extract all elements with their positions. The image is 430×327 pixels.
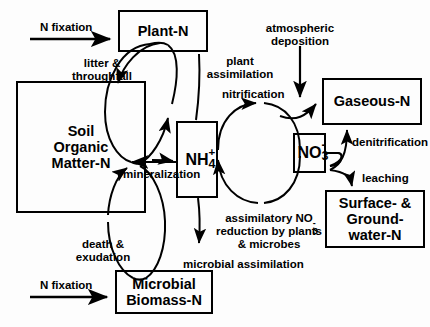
pool-label-soil-line1: Soil [68, 123, 95, 139]
atm-dep-line2: deposition [255, 35, 345, 48]
ammonium-base: NH [185, 151, 208, 168]
flux-label-denitrification: denitrification [352, 136, 428, 149]
pool-box-ammonium[interactable]: NH+4 [176, 121, 218, 198]
assim-no3-count: 3 [313, 226, 318, 236]
arrow-leaching [330, 170, 352, 186]
flux-label-n-fixation-top: N fixation [40, 21, 92, 34]
pool-label-nitrate: NO-3 [298, 144, 322, 162]
flux-label-atmospheric-deposition: atmospheric deposition [255, 22, 345, 48]
flux-label-litter-throughfall: litter & throughfall [57, 57, 147, 83]
ammonium-count: 4 [209, 158, 216, 172]
pool-label-soil-line2: Organic [54, 139, 109, 155]
pool-box-microbial-biomass-n[interactable]: Microbial Biomass-N [115, 270, 213, 314]
pool-box-plant-n[interactable]: Plant-N [118, 10, 208, 52]
pool-label-water-line3: water-N [348, 227, 401, 243]
plant-assim-line2: assimilation [203, 68, 277, 81]
flux-label-leaching: leaching [362, 172, 409, 185]
litter-line1: litter & [57, 57, 147, 70]
pool-label-gaseous-n: Gaseous-N [334, 93, 411, 109]
flux-label-death-exudation: death & exudation [62, 238, 144, 264]
pool-label-soil-line3: Matter-N [52, 155, 111, 171]
pool-box-surface-groundwater-n[interactable]: Surface- & Ground- water-N [325, 190, 425, 248]
pool-label-ammonium: NH+4 [185, 151, 208, 169]
flux-label-mineralization: mineralization [123, 168, 200, 181]
nitrate-base: NO [298, 144, 322, 161]
nitrate-count: 3 [322, 150, 329, 164]
litter-line2: throughfall [57, 70, 147, 83]
assim-no3-text: assimilatory NO [225, 212, 313, 224]
pool-box-nitrate[interactable]: NO-3 [293, 133, 326, 173]
arrow-microbial-assimilation [198, 198, 200, 243]
pool-label-water-line1: Surface- & [339, 195, 412, 211]
atm-dep-line1: atmospheric [255, 22, 345, 35]
flux-label-plant-assimilation: plant assimilation [203, 55, 277, 81]
pool-box-soil-organic-matter-n[interactable]: Soil Organic Matter-N [16, 81, 146, 213]
pool-label-water-line2: Ground- [346, 211, 403, 227]
arrow-plant-assimilation [196, 54, 199, 120]
flux-label-nitrification: nitrification [222, 88, 285, 101]
death-line1: death & [62, 238, 144, 251]
arrow-into-nh4 [152, 160, 173, 161]
assim-no3-line3: & microbes [205, 238, 333, 251]
flux-label-n-fixation-bottom: N fixation [40, 279, 92, 292]
nitrogen-cycle-diagram: Plant-N Soil Organic Matter-N Microbial … [0, 0, 430, 327]
pool-label-microbial-line1: Microbial [132, 276, 196, 292]
assim-no3-line1: assimilatory NO-3 [205, 212, 333, 225]
pool-label-microbial-line2: Biomass-N [126, 292, 202, 308]
pool-box-gaseous-n[interactable]: Gaseous-N [322, 78, 422, 125]
pool-label-plant-n: Plant-N [138, 23, 189, 39]
death-line2: exudation [62, 251, 144, 264]
flux-label-assimilatory-no3-reduction: assimilatory NO-3 reduction by plants & … [205, 212, 333, 251]
flux-label-microbial-assimilation: microbial assimilation [183, 258, 304, 271]
plant-assim-line1: plant [203, 55, 277, 68]
